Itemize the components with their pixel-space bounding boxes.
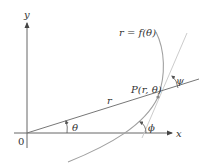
y-axis-label: y	[23, 9, 30, 20]
curve-label: r = f(θ)	[119, 27, 156, 38]
point-p	[156, 95, 159, 98]
x-axis-label: x	[176, 128, 182, 139]
theta-arc	[66, 121, 67, 133]
point-label: P(r, θ)	[130, 84, 162, 95]
polar-diagram: y x 0 r = f(θ) P(r, θ) r θ ψ ϕ	[0, 0, 208, 163]
polar-curve	[68, 32, 163, 162]
phi-label: ϕ	[148, 122, 155, 133]
theta-label: θ	[72, 122, 78, 133]
radius-label: r	[107, 95, 113, 106]
origin-label: 0	[18, 136, 24, 147]
radius-ray	[27, 79, 199, 133]
psi-label: ψ	[176, 75, 184, 86]
